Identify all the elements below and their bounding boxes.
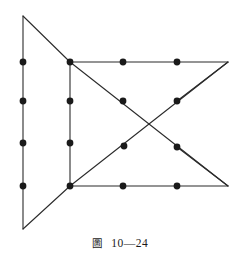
figure-caption: 圖10—24 xyxy=(0,236,240,250)
vertex-dot-diag-b-p2 xyxy=(121,143,128,150)
vertex-dot-diag-a-p1 xyxy=(120,98,127,105)
vertex-dot-left-edge-p2 xyxy=(20,98,27,105)
vertex-dot-diag-a-p2 xyxy=(174,144,181,151)
vertex-dot-top-edge-p1 xyxy=(120,59,127,66)
figure-caption-number: 10—24 xyxy=(111,237,148,249)
vertex-dot-left-edge-p3 xyxy=(20,140,27,147)
vertex-dot-bottom-edge-p2 xyxy=(174,183,181,190)
vertex-dot-diag-b-p1 xyxy=(174,98,181,105)
vertex-dot-mid-bottom xyxy=(67,183,74,190)
vertex-dot-left-edge-p1 xyxy=(20,59,27,66)
segment-left-triangle-upper-diagonal xyxy=(23,16,70,62)
vertex-dot-mid-top xyxy=(67,59,74,66)
figure-container: 圖10—24 xyxy=(0,0,240,261)
vertex-dot-bottom-edge-p1 xyxy=(120,183,127,190)
vertices-layer xyxy=(20,59,181,190)
vertex-dot-mid-p3 xyxy=(67,140,74,147)
geometric-figure-drawing xyxy=(0,0,240,261)
vertex-dot-mid-p2 xyxy=(67,98,74,105)
segments-layer xyxy=(23,16,228,229)
segment-left-triangle-lower-diagonal xyxy=(23,186,70,229)
vertex-dot-left-edge-p4 xyxy=(20,183,27,190)
figure-caption-label: 圖 xyxy=(92,237,103,249)
vertex-dot-top-edge-p2 xyxy=(174,59,181,66)
